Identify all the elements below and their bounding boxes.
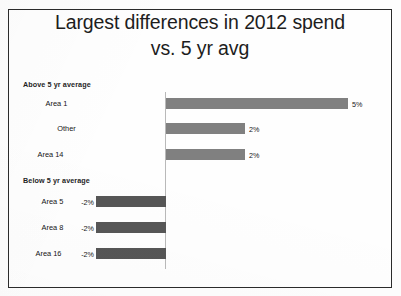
bar-row: Area 8 -2% [8, 221, 392, 234]
category-label: Area 1 [20, 99, 93, 108]
value-label: -2% [70, 224, 94, 233]
bar-row: Other 2% [8, 122, 392, 135]
bar-positive [166, 123, 245, 134]
slide-canvas: Largest differences in 2012 spend vs. 5 … [0, 0, 401, 296]
group-heading-above: Above 5 yr average [23, 80, 91, 89]
bar-negative [96, 248, 166, 259]
value-label: 2% [249, 151, 259, 160]
group-heading-below: Below 5 yr average [23, 176, 90, 185]
bar-negative [96, 222, 166, 233]
bar-negative [96, 196, 166, 207]
category-label: Area 14 [14, 150, 87, 159]
value-label: 5% [352, 100, 362, 109]
value-label: -2% [70, 250, 94, 259]
bar-row: Area 14 2% [8, 148, 392, 161]
bar-positive [166, 98, 348, 109]
value-axis-line [165, 92, 166, 269]
value-label: 2% [249, 125, 259, 134]
bar-positive [166, 149, 245, 160]
bar-row: Area 5 -2% [8, 195, 392, 208]
value-label: -2% [70, 198, 94, 207]
category-label: Other [30, 124, 103, 133]
bar-row: Area 1 5% [8, 97, 392, 110]
bar-row: Area 16 -2% [8, 247, 392, 260]
bar-chart-plot-area: Above 5 yr average Area 1 5% Other 2% Ar… [8, 9, 392, 288]
